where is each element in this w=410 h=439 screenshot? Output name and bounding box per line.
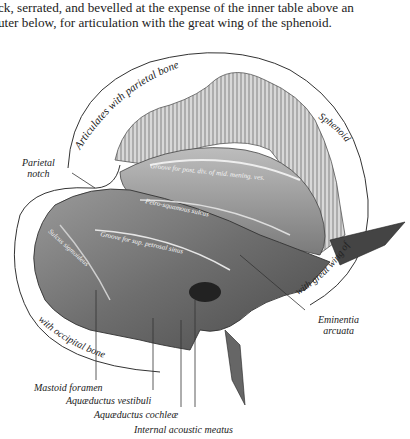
label-eminentia-arcuata: Eminentia arcuata	[318, 314, 359, 336]
internal-acoustic-meatus-opening	[189, 282, 221, 302]
temporal-bone-illustration: Articulates with parietal bone Sphenoid …	[0, 0, 410, 439]
label-parietal-notch: Parietal notch	[22, 157, 55, 179]
styloid-process	[225, 330, 245, 405]
label-aqueductus-vestibuli: Aquæductus vestibuli	[66, 395, 151, 406]
label-mastoid-foramen: Mastoid foramen	[34, 382, 103, 393]
label-aqueductus-cochleae: Aquæductus cochleæ	[94, 409, 178, 420]
label-internal-acoustic-meatus: Internal acoustic meatus	[134, 424, 233, 435]
